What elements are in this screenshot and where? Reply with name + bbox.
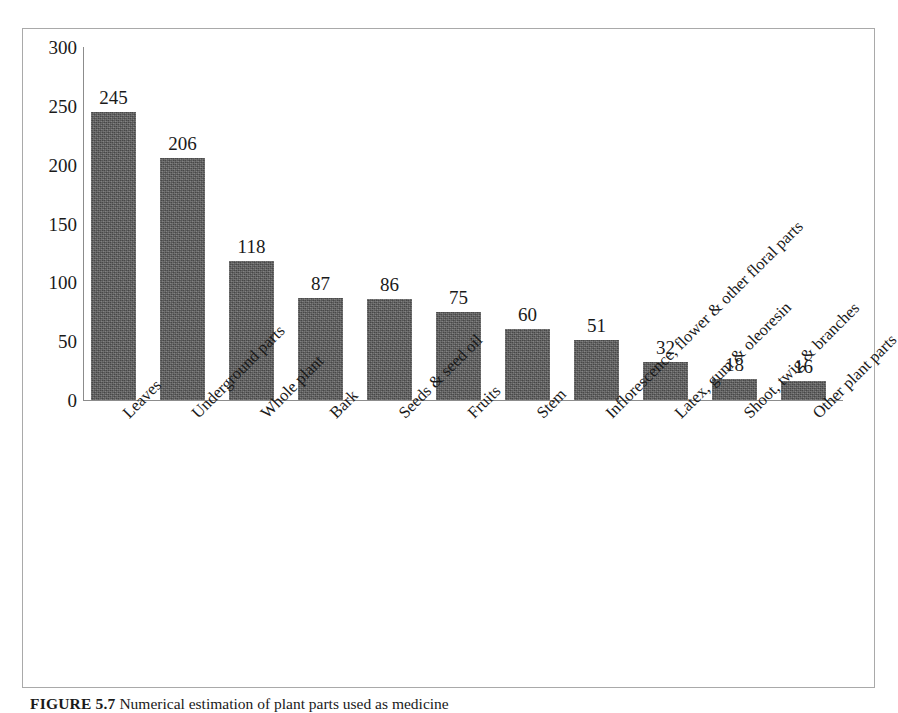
bar-value-label: 75 [449,288,468,307]
y-axis-tick-label: 250 [17,96,77,115]
y-axis-tick-label: 200 [17,155,77,174]
figure-caption-text: Numerical estimation of plant parts used… [119,695,448,712]
y-axis-tick-label: 100 [17,273,77,292]
bar-item[interactable]: 206 [160,128,205,400]
figure-frame: 050100150200250300 245206118878675605132… [22,28,875,688]
bar-item[interactable]: 51 [574,310,619,400]
bar-item[interactable]: 245 [91,82,136,400]
bar-chart-plot-area: 050100150200250300 245206118878675605132… [83,47,843,401]
y-axis-tick-label: 50 [17,332,77,351]
bar-rect[interactable] [367,299,412,400]
bar-value-label: 87 [311,274,330,293]
bar-rect[interactable] [91,112,136,400]
bar-value-label: 245 [99,88,128,107]
y-axis-tick-label: 150 [17,214,77,233]
bar-value-label: 118 [238,237,266,256]
y-axis-tick-label: 0 [17,391,77,410]
bar-item[interactable]: 86 [367,269,412,400]
bar-value-label: 86 [380,275,399,294]
bar-rect[interactable] [160,158,205,400]
bar-rect[interactable] [505,329,550,400]
category-label: Latex, gum & oleoresin [672,299,794,421]
y-axis-tick-label: 300 [17,38,77,57]
category-label: Shoot, twig & branches [741,300,863,422]
figure-caption-number: FIGURE 5.7 [30,695,116,712]
bar-rect[interactable] [574,340,619,400]
figure-caption: FIGURE 5.7 Numerical estimation of plant… [30,694,880,713]
bar-value-label: 60 [518,305,537,324]
bar-item[interactable]: 60 [505,299,550,400]
bar-value-label: 51 [587,316,606,335]
bar-value-label: 206 [168,134,197,153]
y-axis-line [83,47,84,401]
